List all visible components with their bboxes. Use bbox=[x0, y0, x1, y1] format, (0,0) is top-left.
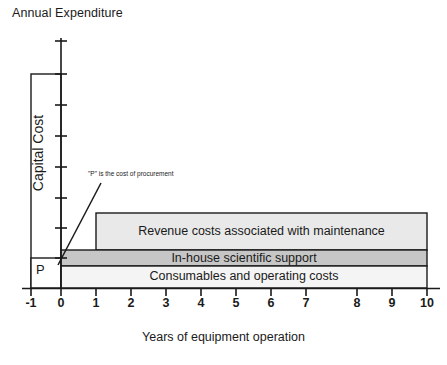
x-tick-label-4: 4 bbox=[181, 296, 221, 310]
x-tick-label-2: 2 bbox=[111, 296, 151, 310]
x-tick-label-6: 6 bbox=[251, 296, 291, 310]
bar-label-inhouse-support: In-house scientific support bbox=[61, 251, 427, 265]
x-tick-label-9: 9 bbox=[372, 296, 412, 310]
x-tick-label-10: 10 bbox=[407, 296, 447, 310]
chart-plot-area bbox=[0, 0, 447, 365]
x-tick-label-1: 1 bbox=[76, 296, 116, 310]
bar-label-consumables: Consumables and operating costs bbox=[61, 269, 427, 283]
bar-label-p: P bbox=[36, 262, 45, 277]
y-axis-title: Capital Cost bbox=[30, 93, 46, 213]
x-tick-label-8: 8 bbox=[337, 296, 377, 310]
chart-figure: Annual Expenditure bbox=[0, 0, 447, 365]
x-tick-label-0: 0 bbox=[41, 296, 81, 310]
x-tick-label-3: 3 bbox=[146, 296, 186, 310]
annotation-procurement-note: "P" is the cost of procurement bbox=[88, 170, 174, 177]
x-axis-title: Years of equipment operation bbox=[0, 330, 447, 344]
bar-label-revenue-costs: Revenue costs associated with maintenanc… bbox=[96, 224, 427, 238]
x-tick-label-7: 7 bbox=[286, 296, 326, 310]
x-tick-label-5: 5 bbox=[216, 296, 256, 310]
